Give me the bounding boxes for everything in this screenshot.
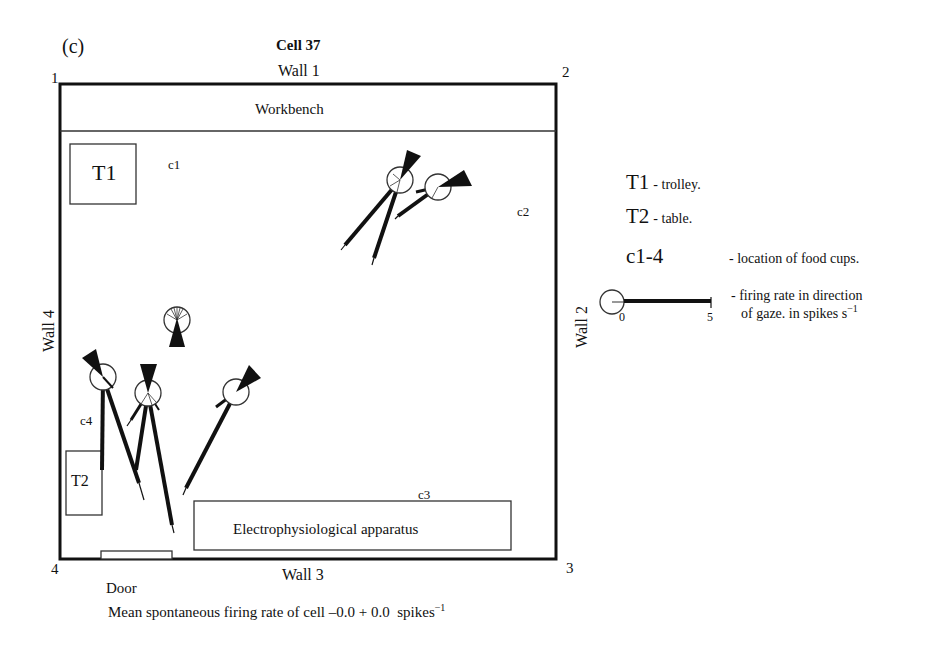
trolley-box	[70, 144, 136, 204]
gaze-glyph-3	[164, 307, 190, 347]
gaze-glyph-6	[183, 365, 261, 495]
door-box	[101, 551, 172, 559]
table-box	[66, 451, 102, 515]
gaze-glyph-5	[127, 364, 174, 533]
legend-scale-glyph	[600, 290, 711, 314]
apparatus-box	[194, 501, 511, 550]
room-diagram	[0, 0, 929, 648]
room-outline	[60, 84, 556, 559]
gaze-glyph-4	[82, 349, 144, 500]
